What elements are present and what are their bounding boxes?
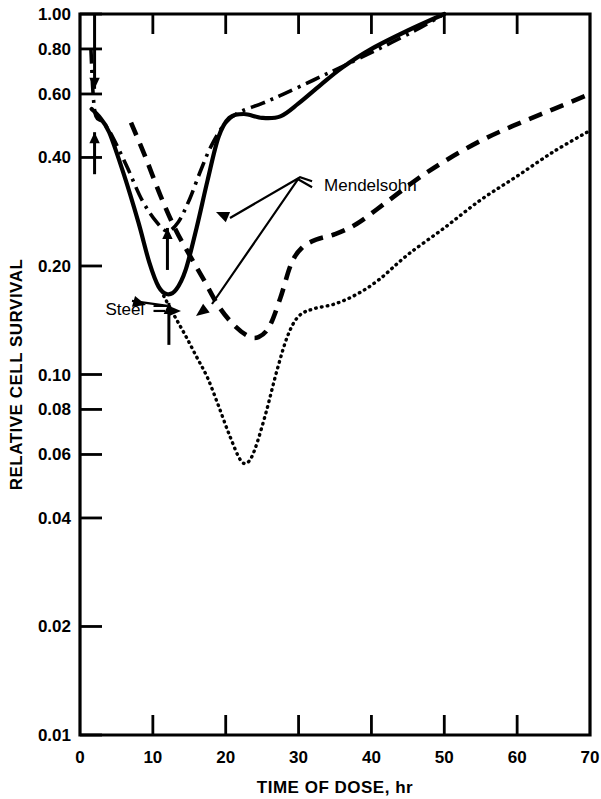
y-tick-label: 0.60 xyxy=(38,85,71,104)
x-axis-title: TIME OF DOSE, hr xyxy=(257,778,413,797)
y-axis-title: RELATIVE CELL SURVIVAL xyxy=(7,259,26,491)
x-tick-label: 60 xyxy=(508,748,527,767)
dose-arrow-up-2 xyxy=(162,228,172,270)
mendelsohn-leader-dashdot xyxy=(216,177,312,222)
y-tick-label: 0.02 xyxy=(38,617,71,636)
x-tick-label: 20 xyxy=(216,748,235,767)
x-tick-label: 10 xyxy=(143,748,162,767)
y-tick-label: 0.08 xyxy=(38,400,71,419)
annotation-label-steel: Steel xyxy=(106,300,145,319)
y-tick-label: 0.80 xyxy=(38,40,71,59)
x-tick-label: 30 xyxy=(289,748,308,767)
y-tick-label: 0.01 xyxy=(38,726,71,745)
y-tick-label: 0.20 xyxy=(38,257,71,276)
figure-container: 1.000.800.600.400.200.100.080.060.040.02… xyxy=(0,0,601,799)
y-tick-label: 0.04 xyxy=(38,509,72,528)
y-tick-label: 0.10 xyxy=(38,366,71,385)
y-tick-label: 0.06 xyxy=(38,445,71,464)
x-tick-label: 50 xyxy=(435,748,454,767)
annotation-label-mendelsohn: Mendelsohn xyxy=(324,176,417,195)
x-tick-label: 0 xyxy=(75,748,84,767)
x-tick-label: 40 xyxy=(362,748,381,767)
plot-frame xyxy=(80,14,590,735)
x-tick-label: 70 xyxy=(581,748,600,767)
survival-curve-chart: 1.000.800.600.400.200.100.080.060.040.02… xyxy=(0,0,601,799)
dose-arrow-up-1 xyxy=(89,132,99,174)
y-tick-label: 1.00 xyxy=(38,5,71,24)
y-tick-label: 0.40 xyxy=(38,148,71,167)
